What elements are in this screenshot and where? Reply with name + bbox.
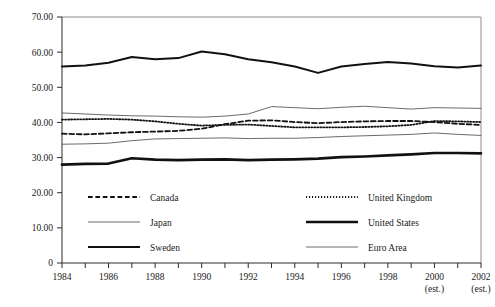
- y-tick-label: 0: [48, 258, 53, 268]
- x-tick-label: 1994: [285, 272, 304, 282]
- y-tick-label: 50.00: [32, 83, 54, 93]
- x-tick-label: 1996: [332, 272, 351, 282]
- series-group: [62, 51, 481, 164]
- chart-legend: CanadaUnited KingdomJapanUnited StatesSw…: [88, 193, 433, 253]
- y-tick-label: 60.00: [32, 48, 54, 58]
- x-axis: 198419861988199019921994199619982000(est…: [53, 263, 491, 295]
- line-chart: 010.0020.0030.0040.0050.0060.0070.001984…: [0, 0, 495, 307]
- x-tick-label: 1988: [146, 272, 165, 282]
- series-line-canada: [62, 120, 481, 134]
- legend-label-canada: Canada: [150, 193, 179, 203]
- legend-label-japan: Japan: [150, 218, 172, 228]
- series-line-sweden: [62, 51, 481, 72]
- x-tick-label: 1984: [53, 272, 72, 282]
- series-line-united-states: [62, 153, 481, 165]
- series-line-euro-area: [62, 133, 481, 144]
- legend-label-sweden: Sweden: [150, 243, 180, 253]
- x-tick-sublabel: (est.): [425, 284, 444, 295]
- legend-label-united-kingdom: United Kingdom: [368, 193, 433, 203]
- y-tick-label: 30.00: [32, 153, 54, 163]
- y-tick-label: 70.00: [32, 12, 54, 22]
- x-tick-label: 1992: [239, 272, 258, 282]
- y-axis: 010.0020.0030.0040.0050.0060.0070.00: [32, 12, 62, 268]
- series-line-japan: [62, 106, 481, 117]
- chart-figure: 010.0020.0030.0040.0050.0060.0070.001984…: [0, 0, 495, 307]
- legend-label-united-states: United States: [368, 218, 419, 228]
- legend-label-euro-area: Euro Area: [368, 243, 408, 253]
- y-tick-label: 20.00: [32, 188, 54, 198]
- x-tick-label: 2000: [425, 272, 444, 282]
- y-tick-label: 10.00: [32, 223, 54, 233]
- x-tick-label: 1998: [378, 272, 397, 282]
- x-tick-label: 1990: [192, 272, 211, 282]
- x-tick-label: 1986: [99, 272, 118, 282]
- y-tick-label: 40.00: [32, 118, 54, 128]
- x-tick-label: 2002: [472, 272, 491, 282]
- x-tick-sublabel: (est.): [471, 284, 490, 295]
